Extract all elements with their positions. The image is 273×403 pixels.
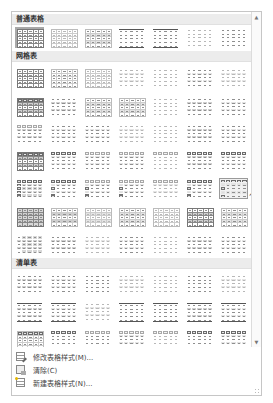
table-style-grid-6-2[interactable] (49, 206, 78, 227)
table-style-grid-4-3[interactable] (83, 150, 112, 171)
table-style-plain-6[interactable] (185, 27, 214, 48)
table-style-grid-2-3[interactable] (83, 96, 112, 117)
clear-table-icon (16, 365, 25, 374)
table-style-grid-1-1[interactable] (15, 67, 44, 88)
table-style-list-1-7[interactable] (219, 273, 248, 294)
table-style-grid-6-3[interactable] (83, 206, 112, 227)
table-style-list-3-3[interactable] (83, 329, 112, 347)
modify-table-style-menu-item[interactable]: 修改表格样式(M)... (12, 350, 261, 363)
scroll-down-icon[interactable]: ▼ (252, 337, 261, 347)
table-style-list-3-1[interactable] (15, 329, 44, 347)
table-style-grid-1-2[interactable] (49, 67, 78, 88)
grid-tables-row-1 (15, 67, 252, 89)
table-style-grid-4-5[interactable] (151, 150, 180, 171)
table-style-grid-1-4[interactable] (117, 67, 146, 88)
table-style-list-3-2[interactable] (49, 329, 78, 347)
table-style-grid-5-5[interactable] (151, 178, 180, 199)
table-style-grid-6-7[interactable] (219, 206, 248, 227)
table-style-list-1-1[interactable] (15, 273, 44, 294)
table-style-list-2-3[interactable] (83, 301, 112, 322)
table-style-list-1-2[interactable] (49, 273, 78, 294)
table-style-list-2-1[interactable] (15, 301, 44, 322)
table-style-plain-1[interactable] (15, 27, 44, 48)
table-style-list-2-4[interactable] (117, 301, 146, 322)
plain-tables-row (15, 27, 252, 49)
table-style-grid-1-5[interactable] (151, 67, 180, 88)
table-style-grid-2-6[interactable] (185, 96, 214, 117)
menu-item-label: 新建表格样式(N)... (33, 378, 92, 388)
table-style-grid-6-4[interactable] (117, 206, 146, 227)
table-style-plain-3[interactable] (83, 27, 112, 48)
table-style-grid-5-4[interactable] (117, 178, 146, 199)
section-header-plain-tables: 普通表格 (12, 14, 252, 25)
list-tables-row-3 (15, 329, 252, 347)
table-style-list-1-5[interactable] (151, 273, 180, 294)
section-header-list-tables: 清单表 (12, 258, 252, 269)
table-style-grid-4-1[interactable] (15, 150, 44, 171)
table-style-list-3-7[interactable] (219, 329, 248, 347)
table-style-grid-2-1[interactable] (15, 96, 44, 117)
table-style-list-3-5[interactable] (151, 329, 180, 347)
table-style-grid-7-1[interactable] (15, 234, 44, 255)
table-style-grid-5-7[interactable] (219, 178, 248, 199)
list-tables-row-1 (15, 273, 252, 295)
edit-table-style-icon (16, 352, 25, 361)
table-style-list-2-7[interactable] (219, 301, 248, 322)
new-table-style-menu-item[interactable]: 新建表格样式(N)... (12, 376, 261, 389)
table-style-list-3-6[interactable] (185, 329, 214, 347)
section-header-grid-tables: 网格表 (12, 51, 252, 62)
gallery-scrollbar[interactable]: ▲ ▼ (251, 12, 261, 347)
grid-tables-row-7 (15, 234, 252, 256)
table-style-plain-2[interactable] (49, 27, 78, 48)
table-style-plain-5[interactable] (151, 27, 180, 48)
table-style-grid-3-7[interactable] (219, 123, 248, 144)
table-style-grid-3-2[interactable] (49, 123, 78, 144)
table-style-grid-4-4[interactable] (117, 150, 146, 171)
table-style-grid-4-7[interactable] (219, 150, 248, 171)
scroll-up-icon[interactable]: ▲ (252, 12, 261, 22)
table-style-grid-7-6[interactable] (185, 234, 214, 255)
table-style-grid-3-4[interactable] (117, 123, 146, 144)
table-style-grid-7-7[interactable] (219, 234, 248, 255)
table-style-grid-6-6[interactable] (185, 206, 214, 227)
table-style-grid-3-3[interactable] (83, 123, 112, 144)
table-style-grid-5-1[interactable] (15, 178, 44, 199)
table-style-grid-1-6[interactable] (185, 67, 214, 88)
table-style-plain-4[interactable] (117, 27, 146, 48)
table-style-grid-6-1[interactable] (15, 206, 44, 227)
table-style-list-2-5[interactable] (151, 301, 180, 322)
table-style-list-1-6[interactable] (185, 273, 214, 294)
table-style-grid-7-3[interactable] (83, 234, 112, 255)
table-style-list-2-6[interactable] (185, 301, 214, 322)
new-table-style-icon (16, 378, 25, 387)
table-style-menu: 修改表格样式(M)... 清除(C) 新建表格样式(N)... (12, 350, 261, 389)
resize-grip-icon[interactable] (254, 388, 260, 394)
table-style-grid-2-7[interactable] (219, 96, 248, 117)
table-style-grid-6-5[interactable] (151, 206, 180, 227)
table-style-grid-2-2[interactable] (49, 96, 78, 117)
menu-item-label: 清除(C) (33, 365, 57, 375)
table-style-list-1-3[interactable] (83, 273, 112, 294)
table-style-grid-7-4[interactable] (117, 234, 146, 255)
table-style-grid-2-4[interactable] (117, 96, 146, 117)
table-style-grid-5-6[interactable] (185, 178, 214, 199)
grid-tables-row-6 (15, 206, 252, 228)
table-style-grid-1-3[interactable] (83, 67, 112, 88)
table-style-grid-2-5[interactable] (151, 96, 180, 117)
table-style-grid-5-3[interactable] (83, 178, 112, 199)
table-style-list-2-2[interactable] (49, 301, 78, 322)
table-style-grid-7-5[interactable] (151, 234, 180, 255)
table-style-grid-3-6[interactable] (185, 123, 214, 144)
menu-item-label: 修改表格样式(M)... (33, 352, 93, 362)
table-style-grid-3-1[interactable] (15, 123, 44, 144)
table-style-grid-4-6[interactable] (185, 150, 214, 171)
table-style-plain-7[interactable] (219, 27, 248, 48)
table-style-list-1-4[interactable] (117, 273, 146, 294)
table-style-grid-1-7[interactable] (219, 67, 248, 88)
table-style-list-3-4[interactable] (117, 329, 146, 347)
clear-menu-item[interactable]: 清除(C) (12, 363, 261, 376)
table-style-grid-4-2[interactable] (49, 150, 78, 171)
table-style-grid-7-2[interactable] (49, 234, 78, 255)
table-style-grid-5-2[interactable] (49, 178, 78, 199)
table-style-grid-3-5[interactable] (151, 123, 180, 144)
